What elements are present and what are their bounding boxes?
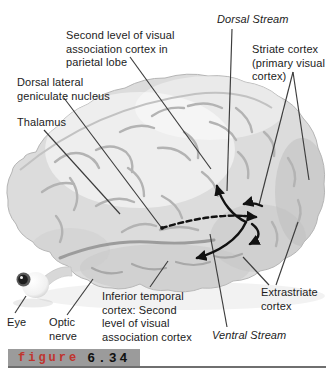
figure-page: Second level of visual association corte… bbox=[0, 0, 333, 374]
label-extrastriate-cortex: Extrastriate cortex bbox=[261, 286, 318, 313]
label-dorsal-lateral-geniculate: Dorsal lateral geniculate nucleus bbox=[17, 76, 110, 103]
label-thalamus: Thalamus bbox=[17, 116, 66, 130]
label-dorsal-stream: Dorsal Stream bbox=[217, 13, 289, 27]
figure-rule bbox=[8, 366, 326, 369]
dashed-line-arrow bbox=[244, 216, 256, 217]
figure-banner-number: 6.34 bbox=[87, 351, 130, 366]
pupil bbox=[18, 275, 28, 285]
eye-highlight bbox=[20, 276, 23, 279]
brain bbox=[7, 74, 329, 292]
label-ventral-stream: Ventral Stream bbox=[212, 329, 286, 343]
figure-banner-word: figure bbox=[18, 351, 79, 365]
label-inferior-temporal: Inferior temporal cortex: Second level o… bbox=[102, 290, 192, 344]
label-optic-nerve: Optic nerve bbox=[49, 316, 77, 343]
label-striate-cortex: Striate cortex (primary visual cortex) bbox=[252, 43, 325, 84]
optic-nerve-stalk bbox=[45, 267, 72, 287]
label-eye: Eye bbox=[7, 316, 26, 330]
label-second-level-parietal: Second level of visual association corte… bbox=[66, 29, 175, 70]
figure-banner: figure 6.34 bbox=[8, 349, 140, 367]
